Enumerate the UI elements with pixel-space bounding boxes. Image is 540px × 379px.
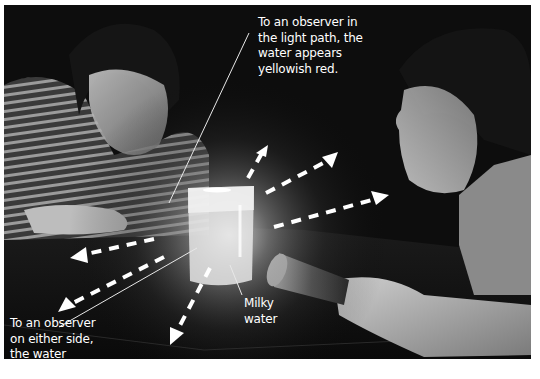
label-milky-water: Milky water bbox=[244, 296, 304, 327]
label-light-path-observer: To an observer in the light path, the wa… bbox=[258, 15, 428, 77]
tyndall-effect-photo: To an observer in the light path, the wa… bbox=[4, 5, 531, 359]
label-side-observer: To an observer on either side, the water… bbox=[10, 316, 130, 359]
beaker bbox=[188, 186, 254, 285]
